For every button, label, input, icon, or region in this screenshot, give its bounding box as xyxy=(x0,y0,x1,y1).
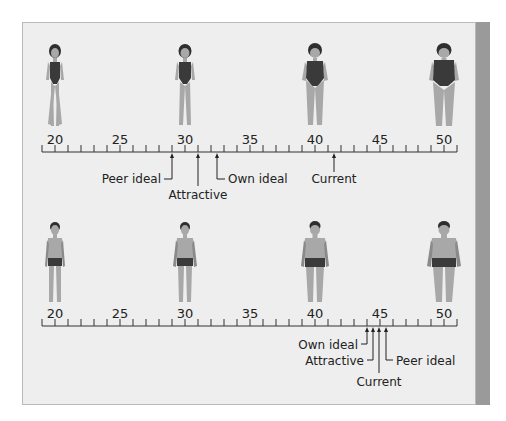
bmi-axis xyxy=(42,319,457,326)
svg-text:Peer ideal: Peer ideal xyxy=(396,354,455,368)
tick-label-50: 50 xyxy=(436,306,453,321)
men-diagram: 20 25 30 35 40 45 50 Own ideal Attractiv… xyxy=(0,0,506,421)
tick-label-40: 40 xyxy=(307,306,324,321)
male-figure-50-icon xyxy=(427,221,461,302)
tick-label-30: 30 xyxy=(177,306,194,321)
tick-label-35: 35 xyxy=(242,306,259,321)
male-figure-20-icon xyxy=(45,222,65,302)
tick-label-25: 25 xyxy=(112,306,129,321)
tick-label-45: 45 xyxy=(372,306,389,321)
svg-text:Attractive: Attractive xyxy=(305,354,364,368)
male-figure-40-icon xyxy=(301,221,329,302)
marker-own-ideal: Own ideal xyxy=(298,327,369,352)
svg-text:Current: Current xyxy=(356,375,401,389)
men-panel: 20 25 30 35 40 45 50 Own ideal Attractiv… xyxy=(0,0,506,421)
tick-label-20: 20 xyxy=(47,306,64,321)
marker-peer-ideal: Peer ideal xyxy=(384,327,455,368)
male-figure-30-icon xyxy=(173,222,197,302)
svg-text:Own ideal: Own ideal xyxy=(298,338,358,352)
